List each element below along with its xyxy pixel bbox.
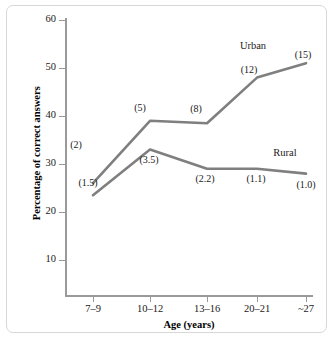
urban-point-label-2: (8) xyxy=(176,104,216,114)
rural-point-label-3: (1.1) xyxy=(236,174,276,184)
urban-point-label-1: (5) xyxy=(120,103,160,113)
rural-point-label-0: (1.5) xyxy=(68,178,108,188)
urban-point-label-4: (15) xyxy=(283,50,323,60)
rural-point-label-4: (1.0) xyxy=(286,180,326,190)
urban-point-label-0: (2) xyxy=(56,140,96,150)
line-chart: 60 50 40 30 20 10 7–9 10–12 13–16 20–21 … xyxy=(0,0,335,345)
rural-point-label-2: (2.2) xyxy=(185,174,225,184)
rural-series-label: Rural xyxy=(255,148,315,159)
urban-series-label: Urban xyxy=(223,41,283,52)
rural-point-label-1: (3.5) xyxy=(129,155,169,165)
urban-point-label-3: (12) xyxy=(229,65,269,75)
